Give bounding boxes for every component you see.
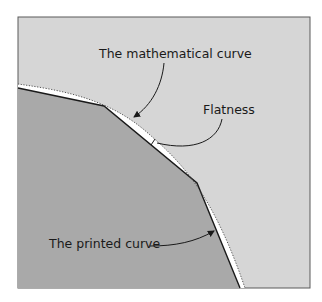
mathematical-curve-label: The mathematical curve xyxy=(98,46,252,61)
printed-curve-label: The printed curve xyxy=(48,236,161,251)
flatness-label: Flatness xyxy=(203,102,255,117)
flatness-diagram: The mathematical curve Flatness The prin… xyxy=(0,0,322,302)
